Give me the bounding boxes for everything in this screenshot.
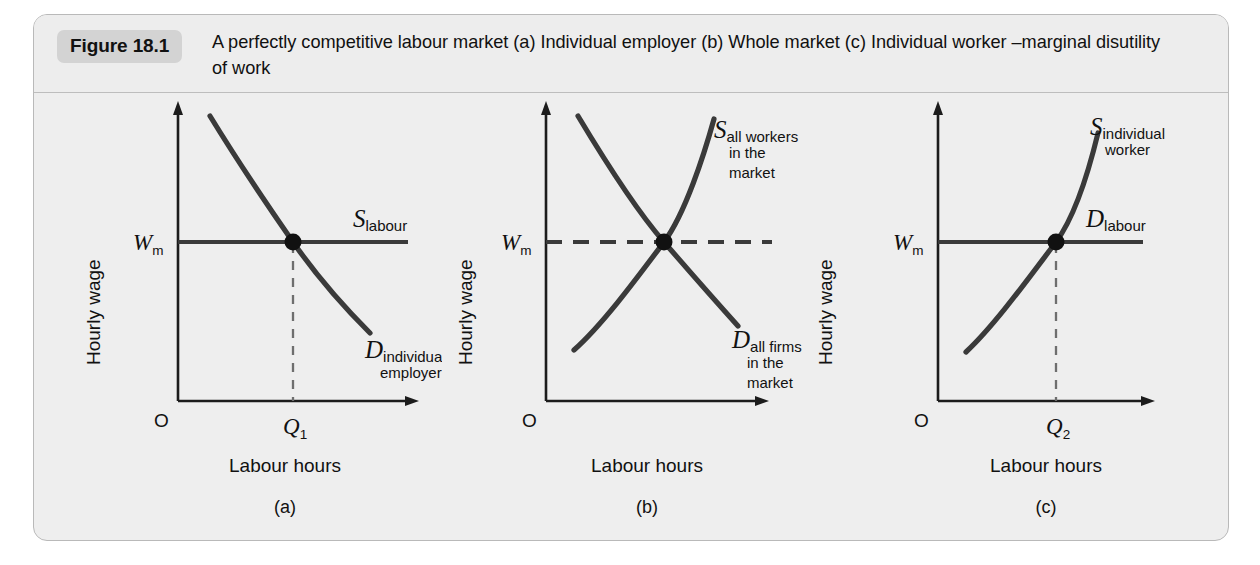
panel-a-letter: (a) <box>274 497 296 517</box>
panel-c-chart: Hourly wage Wm O Q2 Sindividual worker <box>798 93 1170 541</box>
panel-a-x-axis-label: Labour hours <box>229 455 341 476</box>
panel-b-chart: Hourly wage Wm O Sall workers in the mar… <box>442 93 814 541</box>
panel-a-y-axis-arrow <box>173 101 183 115</box>
panel-b-equilibrium-point <box>656 234 673 251</box>
panel-b-supply-label-line3: market <box>729 164 776 181</box>
panel-c-individual-worker: Hourly wage Wm O Q2 Sindividual worker <box>798 93 1170 541</box>
panel-a-x-axis-arrow <box>405 396 419 406</box>
panel-c-x-axis-arrow <box>1141 396 1155 406</box>
panel-b-x-axis-arrow <box>755 396 769 406</box>
figure-card: Figure 18.1 A perfectly competitive labo… <box>33 14 1229 541</box>
panel-a-quantity-label: Q1 <box>283 414 307 442</box>
panel-a-individual-employer: Hourly wage Wm O Q1 <box>70 93 442 541</box>
panel-b-supply-label: Sall workers <box>714 116 798 145</box>
panel-b-y-axis-label: Hourly wage <box>455 259 476 365</box>
panel-b-supply-curve <box>574 119 714 350</box>
figure-plot-area: Hourly wage Wm O Q1 <box>34 93 1228 541</box>
panel-b-letter: (b) <box>636 497 658 517</box>
panel-a-origin-label: O <box>154 410 169 431</box>
panel-c-supply-label-line2: worker <box>1104 141 1150 158</box>
panel-a-wage-label: Wm <box>133 230 163 258</box>
panel-a-demand-label: Dindividual <box>364 336 442 365</box>
panel-b-demand-label-line2: in the <box>747 354 784 371</box>
panel-b-origin-label: O <box>522 410 537 431</box>
panel-c-demand-label: Dlabour <box>1085 205 1146 234</box>
panel-c-y-axis-arrow <box>933 101 943 115</box>
panel-a-y-axis-label: Hourly wage <box>83 259 104 365</box>
figure-number-badge: Figure 18.1 <box>57 30 182 63</box>
panel-b-supply-label-line2: in the <box>729 144 766 161</box>
panel-a-chart: Hourly wage Wm O Q1 <box>70 93 442 541</box>
panel-c-wage-label: Wm <box>893 230 923 258</box>
panel-c-y-axis-label: Hourly wage <box>815 259 836 365</box>
panel-c-letter: (c) <box>1036 497 1057 517</box>
panel-b-demand-label-line3: market <box>747 374 794 391</box>
panel-b-demand-label: Dall firms <box>731 326 802 355</box>
panel-c-origin-label: O <box>914 410 929 431</box>
panel-c-equilibrium-point <box>1048 234 1065 251</box>
panel-b-whole-market: Hourly wage Wm O Sall workers in the mar… <box>442 93 814 541</box>
panel-c-x-axis-label: Labour hours <box>990 455 1102 476</box>
panel-a-equilibrium-point <box>285 234 302 251</box>
panel-a-demand-label-line2: employer <box>380 364 442 381</box>
panel-c-quantity-label: Q2 <box>1046 414 1070 442</box>
panel-a-supply-label: Slabour <box>353 205 407 234</box>
panel-b-x-axis-label: Labour hours <box>591 455 703 476</box>
figure-header: Figure 18.1 A perfectly competitive labo… <box>34 15 1228 93</box>
panel-c-supply-label: Sindividual <box>1090 113 1165 142</box>
panel-b-wage-label: Wm <box>501 230 531 258</box>
figure-caption: A perfectly competitive labour market (a… <box>212 29 1172 81</box>
panel-b-y-axis-arrow <box>541 101 551 115</box>
panel-b-demand-curve <box>578 116 738 326</box>
panel-a-demand-curve <box>210 116 370 333</box>
